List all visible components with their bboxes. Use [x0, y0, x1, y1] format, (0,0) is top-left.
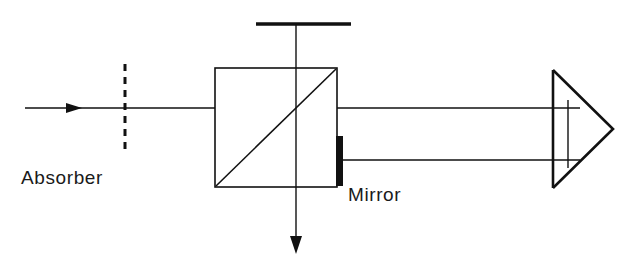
optical-diagram-canvas: Absorber Mirror — [0, 0, 636, 264]
absorber-label: Absorber — [21, 167, 103, 188]
input-beam-arrow-icon — [66, 103, 82, 113]
prism-outline-icon — [553, 70, 613, 188]
beam-splitter-diagonal-icon — [216, 69, 336, 186]
vertical-beam-arrow-icon — [290, 236, 302, 254]
retroreflector-prism — [553, 70, 613, 188]
mirror-bar-icon — [336, 136, 343, 186]
optical-diagram-svg: Absorber Mirror — [0, 0, 636, 264]
input-beam-group — [25, 103, 215, 113]
beam-splitter-cube — [215, 68, 337, 187]
vertical-beam-group — [290, 24, 302, 254]
mirror-label: Mirror — [348, 184, 401, 205]
